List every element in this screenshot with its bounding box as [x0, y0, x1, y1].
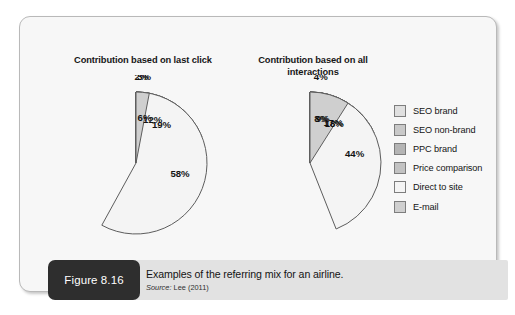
legend-item-direct-to-site: Direct to site [394, 178, 515, 197]
chart-legend: SEO brand SEO non-brand PPC brand Price … [394, 101, 515, 216]
legend-label-seo-brand: SEO brand [413, 106, 458, 116]
figure-caption-bar: Figure 8.16 Examples of the referring mi… [48, 260, 508, 300]
legend-item-e-mail: E-mail [394, 197, 515, 216]
figure-number-label: Figure 8.16 [64, 274, 123, 286]
chart-title-last-click: Contribution based on last click [48, 55, 238, 67]
figure-frame: Contribution based on last click Contrib… [19, 16, 497, 292]
pie-slice-label: 4% [314, 75, 328, 82]
legend-swatch-ppc-brand [394, 143, 406, 155]
caption-background-strip [130, 260, 508, 300]
legend-swatch-direct-to-site [394, 181, 406, 193]
figure-caption-text: Examples of the referring mix for an air… [146, 268, 496, 280]
figure-source-prefix: Source: [146, 283, 171, 292]
legend-swatch-e-mail [394, 201, 406, 213]
pie-slice-label: 3% [137, 75, 151, 82]
pie-chart-all-interactions: 18%4%17%8%44%9% [232, 75, 392, 245]
pie-slice-label: 44% [345, 148, 365, 159]
figure-source-value: Lee (2011) [174, 283, 209, 292]
legend-label-price-comparison: Price comparison [413, 163, 482, 173]
pie-slices-last-click [102, 92, 207, 234]
legend-item-price-comparison: Price comparison [394, 159, 515, 178]
figure-source-line: Source: Lee (2011) [146, 283, 496, 292]
legend-swatch-seo-non-brand [394, 124, 406, 136]
pie-slice-label: 9% [316, 113, 330, 124]
figure-root: Contribution based on last click Contrib… [0, 0, 515, 315]
legend-item-ppc-brand: PPC brand [394, 139, 515, 158]
pie-slice-label: 6% [138, 112, 152, 123]
legend-label-seo-non-brand: SEO non-brand [413, 125, 476, 135]
legend-swatch-seo-brand [394, 105, 406, 117]
legend-item-seo-non-brand: SEO non-brand [394, 120, 515, 139]
legend-item-seo-brand: SEO brand [394, 101, 515, 120]
pie-slice-label: 58% [170, 168, 190, 179]
pie-slice [102, 92, 207, 234]
legend-label-e-mail: E-mail [413, 202, 438, 212]
pie-chart-last-click: 19%2%12%6%58%3% [58, 75, 218, 245]
figure-number-badge: Figure 8.16 [48, 260, 140, 300]
pie-svg-all-interactions: 18%4%17%8%44%9% [232, 75, 392, 245]
legend-label-ppc-brand: PPC brand [413, 144, 457, 154]
legend-label-direct-to-site: Direct to site [413, 182, 463, 192]
pie-svg-last-click: 19%2%12%6%58%3% [58, 75, 218, 245]
legend-swatch-price-comparison [394, 162, 406, 174]
